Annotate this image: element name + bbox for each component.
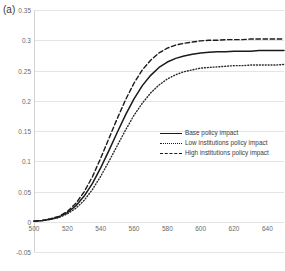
- legend-swatch-dashed-icon: [160, 153, 182, 154]
- legend-swatch-dotted-icon: [160, 143, 182, 144]
- legend-item: Base policy impact: [160, 128, 269, 138]
- legend-label: Base policy impact: [185, 129, 238, 137]
- chart-figure: (a) 0.350.30.250.20.150.10.050-0.05 5005…: [0, 0, 285, 271]
- legend-label: Low institutions policy impact: [185, 139, 267, 147]
- chart-legend: Base policy impact Low institutions poli…: [160, 128, 269, 158]
- legend-label: High institutions policy impact: [185, 149, 269, 157]
- legend-item: Low institutions policy impact: [160, 138, 269, 148]
- legend-swatch-solid-icon: [160, 133, 182, 134]
- legend-item: High institutions policy impact: [160, 148, 269, 158]
